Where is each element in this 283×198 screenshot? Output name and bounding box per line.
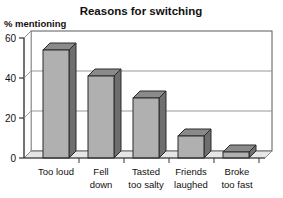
bar-front-face — [178, 136, 204, 158]
x-label-friends-laughed-line1: Friends — [175, 166, 207, 177]
y-axis-caption: % mentioning — [4, 18, 66, 29]
x-label-broke-too-fast-line2: too fast — [221, 179, 253, 190]
bar-side-face — [69, 43, 76, 158]
x-category-labels: Too loud Fell down Tasted too salty Frie… — [38, 166, 253, 190]
x-label-fell-down-line2: down — [90, 179, 113, 190]
x-label-fell-down-line1: Fell — [93, 166, 108, 177]
x-label-friends-laughed-line2: laughed — [174, 179, 208, 190]
x-label-broke-too-fast-line1: Broke — [225, 166, 250, 177]
y-tick-label-60: 60 — [5, 33, 17, 44]
bar-friends-laughed[interactable] — [178, 129, 211, 158]
chart-title: Reasons for switching — [80, 5, 203, 17]
x-label-tasted-too-salty-line1: Tasted — [132, 166, 160, 177]
y-tick-label-40: 40 — [5, 73, 17, 84]
bar-broke-too-fast[interactable] — [223, 145, 256, 158]
plot-left-wall — [24, 31, 31, 158]
bar-side-face — [159, 91, 166, 158]
bar-front-face — [43, 50, 69, 158]
x-label-too-loud-line1: Too loud — [38, 166, 74, 177]
bar-side-face — [114, 69, 121, 158]
x-label-tasted-too-salty-line2: too salty — [128, 179, 164, 190]
bar-front-face — [223, 152, 249, 158]
bar-tasted-too-salty[interactable] — [133, 91, 166, 158]
bar-too-loud[interactable] — [43, 43, 76, 158]
x-axis — [24, 158, 265, 163]
bar-front-face — [88, 76, 114, 158]
bar-fell-down[interactable] — [88, 69, 121, 158]
y-tick-label-0: 0 — [10, 153, 16, 164]
bar-front-face — [133, 98, 159, 158]
bar-chart: Reasons for switching % mentioning 60 40… — [0, 0, 283, 198]
chart-container: Reasons for switching % mentioning 60 40… — [0, 0, 283, 198]
y-tick-label-20: 20 — [5, 113, 17, 124]
